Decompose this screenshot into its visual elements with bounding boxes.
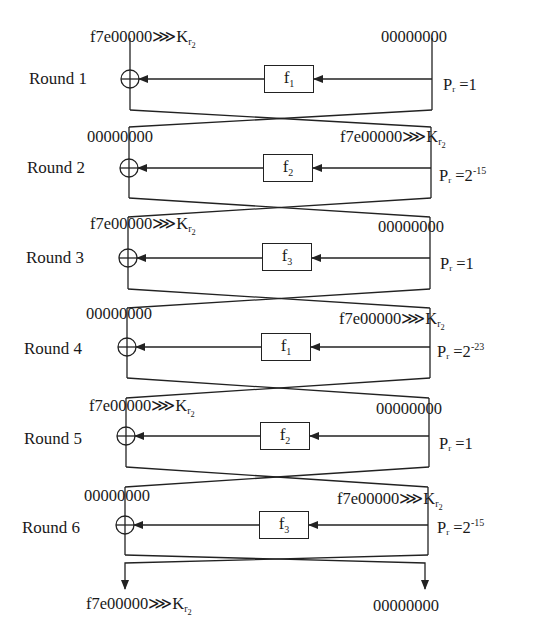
round-4-probability: Pr =2-23 (437, 338, 484, 365)
round-3-right-input: 00000000 (378, 218, 444, 236)
round-1-f-box: f1 (264, 65, 314, 93)
round-3-label: Round 3 (26, 249, 84, 267)
round-3-probability: Pr =1 (440, 250, 474, 277)
round-4-label: Round 4 (24, 340, 82, 358)
round-4-right-input: f7e00000⋙Kr2 (339, 310, 445, 337)
round-2-right-input: f7e00000⋙Kr2 (340, 128, 446, 155)
round-2-label: Round 2 (27, 159, 85, 177)
round-1-label: Round 1 (29, 70, 87, 88)
round-2-probability: Pr =2-15 (439, 162, 486, 189)
round-3-f-box: f3 (262, 243, 312, 271)
round-2-left-input: 00000000 (87, 128, 153, 146)
round-5-label: Round 5 (24, 430, 82, 448)
round-4-left-input: 00000000 (86, 305, 152, 323)
round-2-f-box: f2 (263, 154, 313, 182)
round-5-left-input: f7e00000⋙Kr2 (89, 397, 195, 424)
round-5-right-input: 00000000 (376, 400, 442, 418)
output-right: 00000000 (373, 597, 439, 615)
round-6-left-input: 00000000 (84, 487, 150, 505)
round-5-probability: Pr =1 (439, 430, 473, 457)
round-6-probability: Pr =2-15 (437, 514, 484, 541)
output-left: f7e00000⋙Kr2 (86, 595, 192, 622)
round-4-f-box: f1 (261, 333, 311, 361)
feistel-diagram: f7e00000⋙Kr2 00000000 Round 1 f1 Pr =1 0… (0, 0, 541, 627)
round-6-f-box: f3 (259, 511, 309, 539)
round-1-right-input: 00000000 (381, 28, 447, 46)
round-1-left-input: f7e00000⋙Kr2 (90, 28, 196, 55)
round-3-left-input: f7e00000⋙Kr2 (90, 215, 196, 242)
round-1-probability: Pr =1 (443, 71, 477, 98)
round-6-right-input: f7e00000⋙Kr2 (337, 490, 443, 517)
round-5-f-box: f2 (260, 422, 310, 450)
round-6-label: Round 6 (22, 519, 80, 537)
